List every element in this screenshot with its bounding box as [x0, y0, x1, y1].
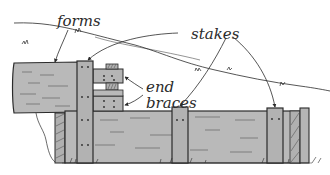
stake-left [77, 61, 93, 163]
label-end-braces-line1: end [146, 80, 174, 95]
end-brace-upper [93, 69, 123, 83]
end-brace-hatch-upper [106, 64, 118, 69]
right-end-hatch [290, 111, 300, 163]
label-end-braces-line2: braces [146, 96, 197, 111]
end-brace-hatch-middle [106, 83, 118, 90]
forms-diagram: forms stakes end braces [0, 0, 330, 175]
stake-right [267, 108, 283, 163]
stakes-leader-right [233, 37, 275, 107]
label-forms: forms [57, 14, 101, 29]
label-stakes: stakes [191, 27, 239, 42]
left-form-board [13, 62, 81, 113]
soil-edge [36, 113, 55, 162]
lower-left-post [55, 113, 65, 163]
forms-leader [55, 30, 68, 62]
end-brace-lower [93, 90, 123, 111]
stake-middle [172, 107, 188, 163]
stake-far-right [300, 108, 309, 163]
end-braces-leader-lower [125, 95, 143, 105]
end-braces-leader-upper [125, 77, 143, 89]
stakes-leader-left [88, 33, 178, 60]
